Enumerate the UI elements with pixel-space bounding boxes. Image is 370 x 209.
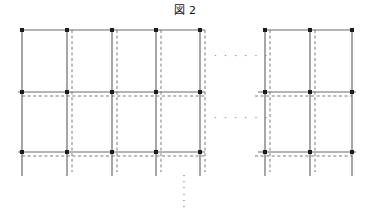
- node-r3-c7: [308, 150, 312, 154]
- node-r2-c6: [263, 90, 267, 94]
- node-r1-c4: [154, 28, 158, 32]
- continuation-ellipsis-row1: · · · · · ·: [214, 52, 270, 61]
- node-r3-c8: [350, 150, 354, 154]
- node-r1-c7: [308, 28, 312, 32]
- node-r1-c6: [263, 28, 267, 32]
- dashed-vertical-lines: [72, 30, 315, 172]
- node-r3-c3: [110, 150, 114, 154]
- lattice-nodes: [20, 28, 354, 154]
- node-r3-c6: [263, 150, 267, 154]
- node-r1-c2: [65, 28, 69, 32]
- node-r2-c5: [198, 90, 202, 94]
- figure-container: 図 2: [0, 0, 370, 209]
- node-r2-c1: [20, 90, 24, 94]
- node-r2-c4: [154, 90, 158, 94]
- continuation-ellipsis-row2: · · · · · ·: [214, 114, 270, 123]
- node-r1-c5: [198, 28, 202, 32]
- node-r1-c1: [20, 28, 24, 32]
- node-r2-c3: [110, 90, 114, 94]
- node-r1-c3: [110, 28, 114, 32]
- node-r3-c2: [65, 150, 69, 154]
- continuation-ellipsis-vertical: ······: [179, 173, 189, 209]
- ellipsis-dot: ·: [179, 204, 189, 209]
- node-r3-c4: [154, 150, 158, 154]
- node-r1-c8: [350, 28, 354, 32]
- node-r3-c1: [20, 150, 24, 154]
- node-r2-c2: [65, 90, 69, 94]
- node-r2-c8: [350, 90, 354, 94]
- node-r2-c7: [308, 90, 312, 94]
- node-r3-c5: [198, 150, 202, 154]
